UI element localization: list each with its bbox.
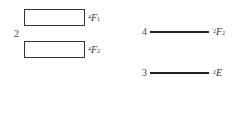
- spin-multiplicity: 2: [213, 28, 216, 34]
- term-subscript: 2: [97, 48, 100, 54]
- level-index-4: 4: [142, 27, 147, 37]
- level-line-2E: [150, 72, 209, 74]
- group-index-2: 2: [14, 29, 19, 39]
- spin-multiplicity: 4: [88, 46, 91, 52]
- term-symbol: E: [216, 67, 222, 78]
- level-line-2F2: [150, 31, 209, 33]
- level-index-3: 3: [142, 68, 147, 78]
- term-subscript: 1: [97, 16, 100, 22]
- band-4F1: [24, 9, 85, 26]
- label-2E: 2E: [213, 68, 222, 78]
- label-4F1: 4F1: [88, 13, 100, 23]
- term-subscript: 2: [222, 30, 225, 36]
- band-4F2: [24, 41, 85, 58]
- spin-multiplicity: 4: [88, 14, 91, 20]
- spin-multiplicity: 2: [213, 69, 216, 75]
- label-2F2: 2F2: [213, 27, 225, 37]
- label-4F2: 4F2: [88, 45, 100, 55]
